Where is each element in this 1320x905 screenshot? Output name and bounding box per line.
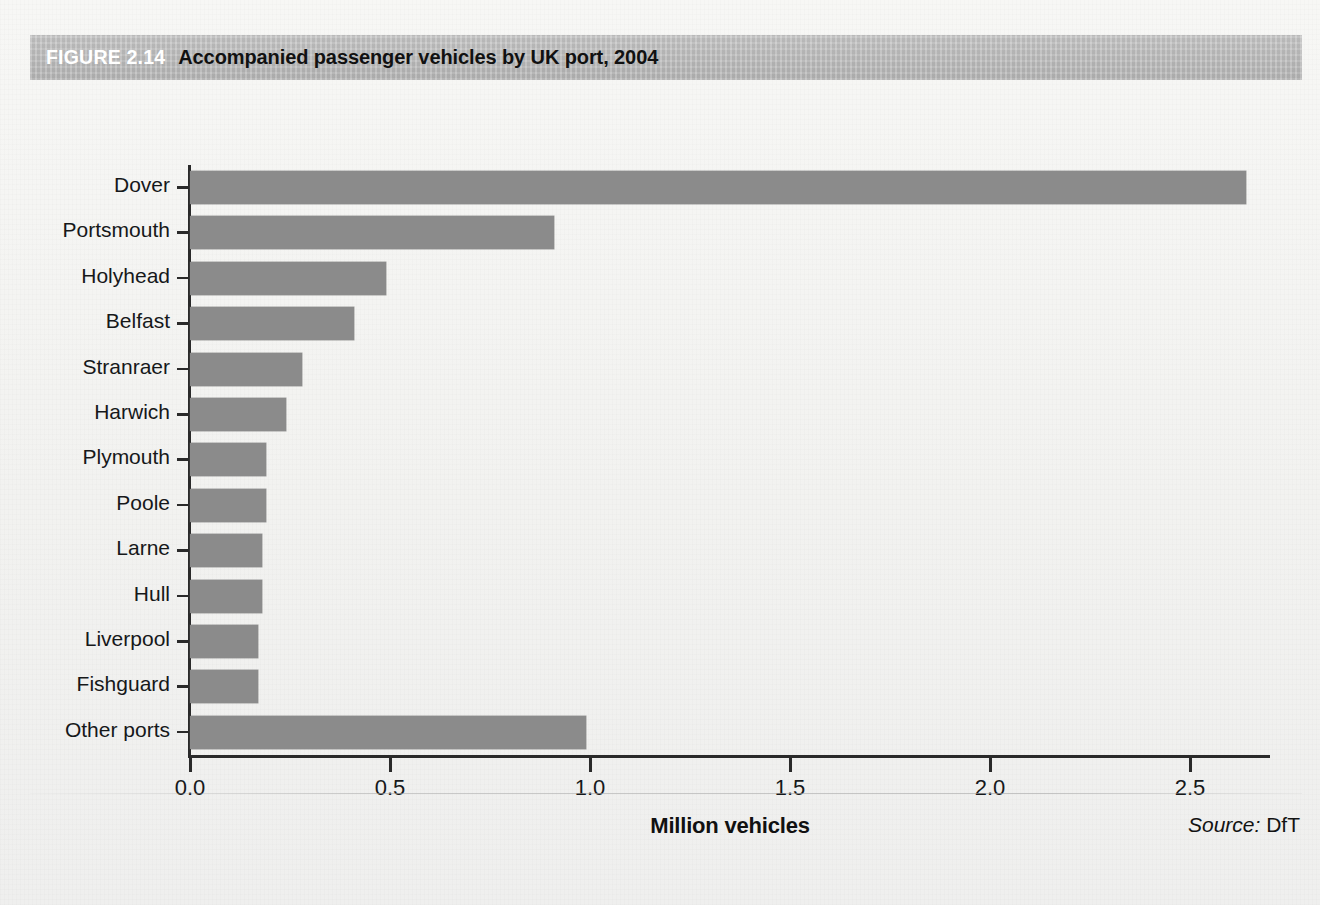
y-axis-tick [177,368,190,371]
bar-group: Holyhead [190,256,1270,301]
category-label: Fishguard [0,672,170,696]
y-axis-tick [177,231,190,234]
bar [190,625,258,658]
y-axis-tick [177,458,190,461]
bar-group: Other ports [190,710,1270,755]
x-axis-tick [389,758,392,772]
x-axis-tick-label: 1.5 [775,775,806,801]
x-axis-tick-label: 0.0 [175,775,206,801]
bottom-divider [30,793,1302,794]
bar [190,716,586,749]
x-axis-tick-label: 1.0 [575,775,606,801]
category-label: Belfast [0,309,170,333]
bar [190,353,302,386]
category-label: Other ports [0,718,170,742]
category-label: Harwich [0,400,170,424]
category-label: Holyhead [0,264,170,288]
x-axis-line [188,755,1270,758]
figure-container: FIGURE 2.14 Accompanied passenger vehicl… [30,35,1302,840]
y-axis-tick [177,186,190,189]
source-note: Source: DfT [1188,813,1300,837]
y-axis-tick [177,322,190,325]
x-axis-tick-label: 2.5 [1175,775,1206,801]
bar [190,534,262,567]
category-label: Hull [0,582,170,606]
y-axis-tick [177,413,190,416]
figure-number-label: FIGURE 2.14 [46,46,165,69]
category-label: Plymouth [0,445,170,469]
category-label: Stranraer [0,355,170,379]
x-axis-tick [1189,758,1192,772]
x-axis-tick-label: 2.0 [975,775,1006,801]
plot-region: DoverPortsmouthHolyheadBelfastStranraerH… [190,165,1270,760]
x-axis-tick [789,758,792,772]
x-axis-tick [989,758,992,772]
chart-area: DoverPortsmouthHolyheadBelfastStranraerH… [30,80,1302,840]
bar [190,216,554,249]
bar [190,670,258,703]
y-axis-tick [177,685,190,688]
figure-title: Accompanied passenger vehicles by UK por… [178,46,658,69]
bar-group: Liverpool [190,619,1270,664]
y-axis-tick [177,549,190,552]
bar [190,398,286,431]
source-value: DfT [1266,813,1300,836]
x-axis-title: Million vehicles [190,813,1270,839]
bar-group: Larne [190,528,1270,573]
y-axis-tick [177,277,190,280]
bar [190,262,386,295]
figure-header: FIGURE 2.14 Accompanied passenger vehicl… [30,35,1302,80]
bar [190,307,354,340]
y-axis-tick [177,504,190,507]
bar-group: Portsmouth [190,210,1270,255]
category-label: Dover [0,173,170,197]
source-label: Source: [1188,813,1260,836]
x-axis-tick [189,758,192,772]
bar-group: Fishguard [190,664,1270,709]
bar-group: Dover [190,165,1270,210]
category-label: Liverpool [0,627,170,651]
x-axis-tick [589,758,592,772]
y-axis-tick [177,731,190,734]
category-label: Poole [0,491,170,515]
bar-group: Poole [190,483,1270,528]
bar [190,443,266,476]
y-axis-tick [177,595,190,598]
x-axis-tick-label: 0.5 [375,775,406,801]
category-label: Larne [0,536,170,560]
bar-group: Belfast [190,301,1270,346]
bar-group: Hull [190,574,1270,619]
bar [190,580,262,613]
y-axis-tick [177,640,190,643]
bar-group: Stranraer [190,347,1270,392]
bar-group: Plymouth [190,437,1270,482]
bar [190,489,266,522]
category-label: Portsmouth [0,218,170,242]
bar-group: Harwich [190,392,1270,437]
bar [190,171,1246,204]
